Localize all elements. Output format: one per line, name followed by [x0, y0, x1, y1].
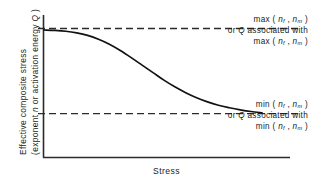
y-axis-label-group: Effective composite stress (exponent n o…: [0, 0, 40, 160]
lower-line2-prefix: or: [228, 111, 238, 120]
lower-line1-suffix: ): [302, 100, 308, 109]
lower-annotation-line2: or Q associated with: [228, 111, 308, 122]
upper-line1-prefix: max (: [254, 15, 279, 24]
y-axis-label-suffix: ): [30, 9, 40, 15]
upper-line1-separator: ,: [285, 15, 293, 24]
upper-line3-subscript-f2: f: [283, 40, 285, 46]
y-axis-label-symbol-q: Q: [30, 15, 40, 22]
lower-line3-prefix: min (: [256, 122, 278, 131]
lower-annotation-line1: min ( nf , nm ): [228, 100, 308, 111]
lower-line3-suffix: ): [302, 122, 308, 131]
y-axis-label-prefix: (exponent: [30, 112, 40, 155]
upper-line1-subscript-f1: f: [283, 18, 285, 24]
upper-line1-suffix: ): [302, 15, 308, 24]
upper-annotation-line2: or Q associated with: [228, 26, 308, 37]
y-axis-label-mid: or activation energy: [30, 21, 40, 106]
upper-line3-suffix: ): [302, 37, 308, 46]
upper-line2-prefix: or: [228, 26, 238, 35]
y-axis-label-line2: (exponent n or activation energy Q ): [30, 9, 40, 155]
lower-line1-subscript-f1: f: [283, 103, 285, 109]
upper-line2-suffix: associated with: [245, 26, 308, 35]
lower-annotation-line3: min ( nf , nm ): [228, 122, 308, 133]
lower-line3-subscript-m2: m: [297, 125, 302, 131]
lower-line2-symbol-q: Q: [238, 111, 245, 120]
lower-line2-suffix: associated with: [245, 111, 308, 120]
lower-line3-separator: ,: [285, 122, 293, 131]
upper-line3-separator: ,: [285, 37, 293, 46]
y-axis-label-line1: Effective composite stress: [18, 49, 28, 155]
upper-annotation-line1: max ( nf , nm ): [228, 15, 308, 26]
lower-line1-subscript-m1: m: [297, 103, 302, 109]
y-axis-label-symbol-n: n: [30, 107, 40, 112]
upper-line1-subscript-m1: m: [297, 18, 302, 24]
lower-asymptote-annotation: min ( nf , nm ) or Q associated with min…: [228, 100, 308, 132]
x-axis-label: Stress: [43, 166, 290, 176]
lower-line1-prefix: min (: [256, 100, 278, 109]
upper-annotation-line3: max ( nf , nm ): [228, 37, 308, 48]
upper-line2-symbol-q: Q: [238, 26, 245, 35]
lower-line3-subscript-f2: f: [283, 125, 285, 131]
upper-line3-prefix: max (: [254, 37, 279, 46]
figure-container: Effective composite stress (exponent n o…: [0, 0, 311, 184]
upper-asymptote-annotation: max ( nf , nm ) or Q associated with max…: [228, 15, 308, 47]
lower-line1-separator: ,: [285, 100, 293, 109]
upper-line3-subscript-m2: m: [297, 40, 302, 46]
